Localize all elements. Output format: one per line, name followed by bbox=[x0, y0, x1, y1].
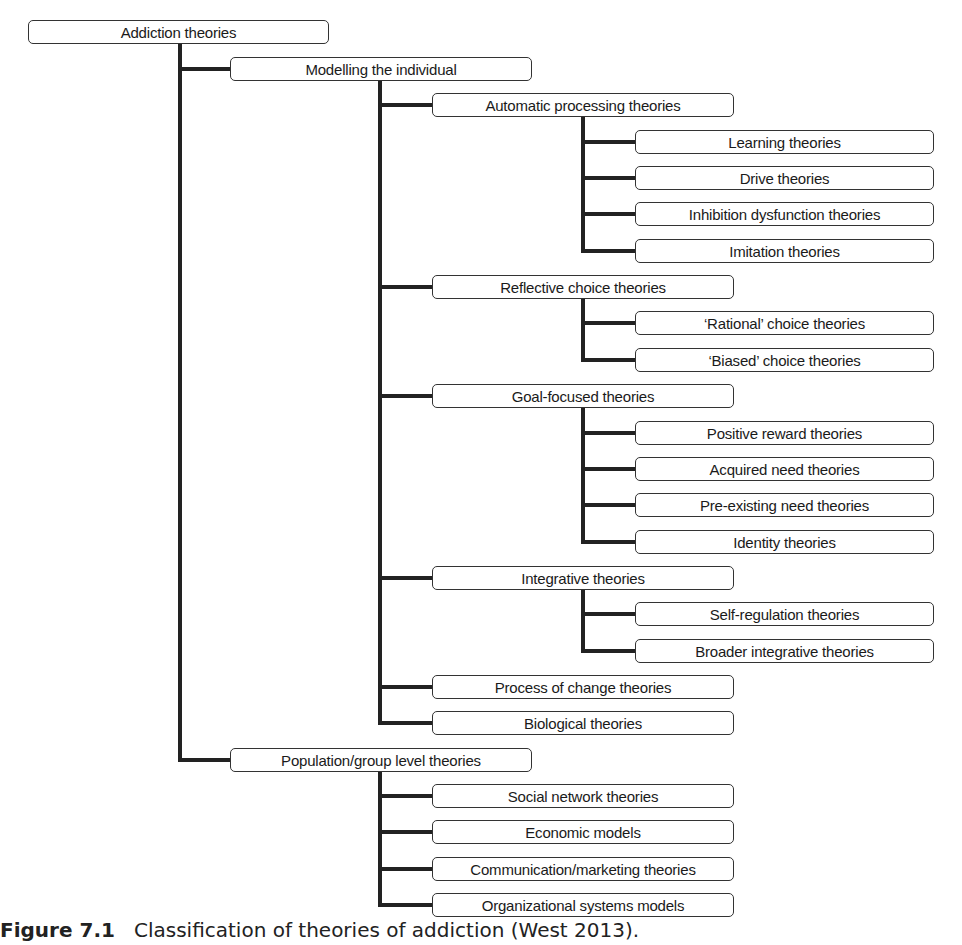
connector-branch bbox=[378, 285, 432, 289]
node-integrative: Integrative theories bbox=[432, 566, 734, 590]
node-inhibition: Inhibition dysfunction theories bbox=[635, 202, 934, 226]
node-reflective: Reflective choice theories bbox=[432, 275, 734, 299]
node-process: Process of change theories bbox=[432, 675, 734, 699]
node-imitation: Imitation theories bbox=[635, 239, 934, 263]
node-biased: ‘Biased’ choice theories bbox=[635, 348, 934, 372]
connector-trunk bbox=[178, 44, 182, 762]
connector-branch bbox=[581, 358, 635, 362]
connector-trunk bbox=[581, 299, 585, 362]
figure-caption: Figure 7.1 Classification of theories of… bbox=[0, 918, 639, 942]
connector-branch bbox=[378, 394, 432, 398]
node-automatic: Automatic processing theories bbox=[432, 93, 734, 117]
connector-trunk bbox=[378, 772, 382, 907]
node-rational: ‘Rational’ choice theories bbox=[635, 311, 934, 335]
node-social: Social network theories bbox=[432, 784, 734, 808]
node-organizational: Organizational systems models bbox=[432, 893, 734, 917]
connector-trunk bbox=[378, 81, 382, 725]
connector-branch bbox=[581, 649, 635, 653]
connector-branch bbox=[581, 612, 635, 616]
node-acquired: Acquired need theories bbox=[635, 457, 934, 481]
node-preexisting: Pre-existing need theories bbox=[635, 493, 934, 517]
connector-branch bbox=[581, 176, 635, 180]
connector-branch bbox=[378, 903, 432, 907]
node-identity: Identity theories bbox=[635, 530, 934, 554]
node-learning: Learning theories bbox=[635, 130, 934, 154]
connector-branch bbox=[378, 867, 432, 871]
node-positive: Positive reward theories bbox=[635, 421, 934, 445]
connector-branch bbox=[378, 830, 432, 834]
connector-branch bbox=[581, 467, 635, 471]
caption-text: Classification of theories of addiction … bbox=[134, 918, 639, 942]
addiction-theories-tree: Addiction theories Modelling the individ… bbox=[0, 0, 962, 945]
node-communication: Communication/marketing theories bbox=[432, 857, 734, 881]
node-modelling: Modelling the individual bbox=[230, 57, 532, 81]
node-drive: Drive theories bbox=[635, 166, 934, 190]
connector-branch bbox=[581, 503, 635, 507]
node-broader: Broader integrative theories bbox=[635, 639, 934, 663]
node-goal: Goal-focused theories bbox=[432, 384, 734, 408]
node-root: Addiction theories bbox=[28, 20, 329, 44]
connector-branch bbox=[178, 758, 230, 762]
figure-label: Figure 7.1 bbox=[0, 918, 115, 942]
connector-branch bbox=[378, 576, 432, 580]
connector-branch bbox=[378, 794, 432, 798]
connector-branch bbox=[581, 212, 635, 216]
connector-trunk bbox=[581, 408, 585, 544]
connector-branch bbox=[178, 67, 230, 71]
connector-trunk bbox=[581, 590, 585, 653]
connector-branch bbox=[581, 249, 635, 253]
node-biological: Biological theories bbox=[432, 711, 734, 735]
connector-branch bbox=[581, 321, 635, 325]
node-population: Population/group level theories bbox=[230, 748, 532, 772]
connector-branch bbox=[378, 103, 432, 107]
connector-branch bbox=[378, 685, 432, 689]
connector-branch bbox=[581, 140, 635, 144]
connector-branch bbox=[581, 540, 635, 544]
connector-branch bbox=[378, 721, 432, 725]
node-selfreg: Self-regulation theories bbox=[635, 602, 934, 626]
connector-branch bbox=[581, 431, 635, 435]
connector-trunk bbox=[581, 117, 585, 253]
node-economic: Economic models bbox=[432, 820, 734, 844]
